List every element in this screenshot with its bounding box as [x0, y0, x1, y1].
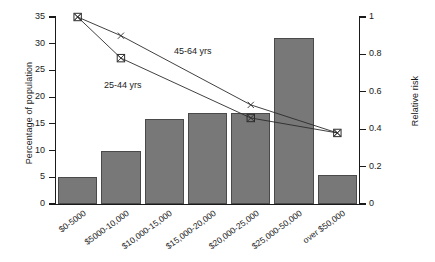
y-tick-label-left: 0: [5, 198, 45, 208]
y-tick-label-right: 0.6: [369, 86, 409, 96]
y-tick-left: [49, 123, 55, 124]
y-axis-right-title: Relative risk: [410, 41, 420, 161]
y-tick-right: [360, 16, 366, 17]
bar: [58, 177, 97, 204]
y-tick-left: [49, 203, 55, 204]
y-axis-right-spine: [359, 16, 360, 205]
series-label-45-64: 45-64 yrs: [174, 46, 212, 56]
bar: [188, 113, 227, 204]
bar: [318, 175, 357, 204]
y-tick-label-right: 0.8: [369, 48, 409, 58]
y-tick-label-left: 20: [5, 91, 45, 101]
bar: [101, 151, 140, 204]
y-tick-right: [360, 166, 366, 167]
y-tick-right: [360, 54, 366, 55]
y-tick-left: [49, 177, 55, 178]
chart-figure: Percentage of population Relative risk 0…: [0, 0, 435, 262]
y-tick-label-right: 0.2: [369, 161, 409, 171]
y-tick-left: [49, 16, 55, 17]
y-tick-label-right: 0: [369, 198, 409, 208]
bar: [145, 119, 184, 204]
y-tick-label-left: 35: [5, 11, 45, 21]
y-tick-right: [360, 203, 366, 204]
y-tick-label-right: 1: [369, 11, 409, 21]
y-tick-left: [49, 70, 55, 71]
y-tick-label-left: 15: [5, 118, 45, 128]
series-label-25-44: 25-44 yrs: [104, 80, 142, 90]
y-tick-left: [49, 150, 55, 151]
y-tick-left: [49, 43, 55, 44]
bar: [274, 38, 313, 204]
y-tick-label-left: 10: [5, 145, 45, 155]
y-tick-right: [360, 91, 366, 92]
y-tick-left: [49, 97, 55, 98]
y-tick-right: [360, 129, 366, 130]
bar: [231, 113, 270, 204]
y-tick-label-left: 5: [5, 171, 45, 181]
y-tick-label-right: 0.4: [369, 123, 409, 133]
y-tick-label-left: 30: [5, 38, 45, 48]
y-axis-left-title: Percentage of population: [24, 33, 34, 193]
x-axis-spine: [55, 204, 361, 205]
y-tick-label-left: 25: [5, 64, 45, 74]
